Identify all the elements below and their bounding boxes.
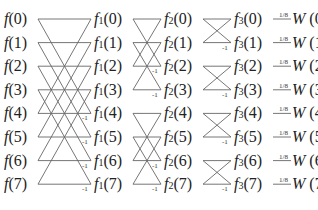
stage1-node-5: f1(5): [94, 128, 122, 146]
stage3-minus-one-label-5: -1: [222, 138, 228, 146]
output-node-4: W (4): [292, 104, 318, 122]
stage3-node-0: f3(0): [234, 10, 262, 28]
stage2-node-1: f2(1): [164, 34, 192, 52]
output-weight-label-4: 1/8: [279, 105, 288, 113]
output-weight-label-7: 1/8: [279, 176, 288, 184]
output-node-1: W (1): [292, 34, 318, 52]
output-node-0: W (0): [292, 10, 318, 28]
stage1-minus-one-label-7: -1: [82, 185, 88, 193]
output-node-3: W (3): [292, 81, 318, 99]
stage2-minus-one-label-7: -1: [152, 185, 158, 193]
stage2-minus-one-label-2: -1: [152, 67, 158, 75]
input-node-5: f(5): [4, 128, 27, 146]
stage2-node-4: f2(4): [164, 104, 192, 122]
fft-butterfly-diagram: f(0)f(1)f(2)f(3)f(4)f(5)f(6)f(7)f1(0)f1(…: [0, 0, 318, 210]
stage2-node-0: f2(0): [164, 10, 192, 28]
stage2-minus-one-label-6: -1: [152, 162, 158, 170]
input-node-7: f(7): [4, 175, 27, 193]
output-weight-label-1: 1/8: [279, 35, 288, 43]
input-node-4: f(4): [4, 104, 27, 122]
stage3-node-6: f3(6): [234, 152, 262, 170]
stage3-node-4: f3(4): [234, 104, 262, 122]
stage3-minus-one-label-1: -1: [222, 44, 228, 52]
stage1-minus-one-label-6: -1: [82, 162, 88, 170]
stage3-node-2: f3(2): [234, 57, 262, 75]
stage1-node-1: f1(1): [94, 34, 122, 52]
output-weight-label-2: 1/8: [279, 58, 288, 66]
stage3-node-3: f3(3): [234, 81, 262, 99]
stage2-minus-one-label-3: -1: [152, 91, 158, 99]
labels-layer: f(0)f(1)f(2)f(3)f(4)f(5)f(6)f(7)f1(0)f1(…: [4, 10, 318, 193]
stage1-node-6: f1(6): [94, 152, 122, 170]
stage1-minus-one-label-4: -1: [82, 114, 88, 122]
stage3-node-5: f3(5): [234, 128, 262, 146]
stage2-node-7: f2(7): [164, 175, 192, 193]
output-weight-label-6: 1/8: [279, 153, 288, 161]
output-weight-label-3: 1/8: [279, 82, 288, 90]
input-node-1: f(1): [4, 34, 27, 52]
output-node-7: W (7): [292, 175, 318, 193]
output-weight-label-0: 1/8: [279, 11, 288, 19]
input-node-2: f(2): [4, 57, 27, 75]
stage1-node-2: f1(2): [94, 57, 122, 75]
stage1-node-7: f1(7): [94, 175, 122, 193]
output-node-2: W (2): [292, 57, 318, 75]
output-node-5: W (5): [292, 128, 318, 146]
stage1-node-0: f1(0): [94, 10, 122, 28]
stage3-node-1: f3(1): [234, 34, 262, 52]
stage1-node-4: f1(4): [94, 104, 122, 122]
input-node-3: f(3): [4, 81, 27, 99]
input-node-6: f(6): [4, 152, 27, 170]
stage2-node-3: f2(3): [164, 81, 192, 99]
stage2-node-5: f2(5): [164, 128, 192, 146]
stage1-node-3: f1(3): [94, 81, 122, 99]
stage3-minus-one-label-7: -1: [222, 185, 228, 193]
stage3-minus-one-label-3: -1: [222, 91, 228, 99]
stage2-node-6: f2(6): [164, 152, 192, 170]
stage1-minus-one-label-5: -1: [82, 138, 88, 146]
stage3-node-7: f3(7): [234, 175, 262, 193]
input-node-0: f(0): [4, 10, 27, 28]
output-weight-label-5: 1/8: [279, 129, 288, 137]
output-node-6: W (6): [292, 152, 318, 170]
stage2-node-2: f2(2): [164, 57, 192, 75]
